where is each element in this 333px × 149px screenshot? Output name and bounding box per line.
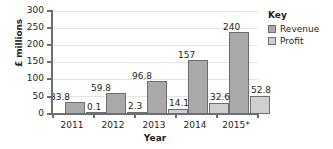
x-category-2014: 2014 — [172, 120, 218, 130]
y-tick-300 — [47, 10, 52, 12]
gridline-100 — [52, 79, 258, 80]
y-tick-200 — [47, 44, 52, 46]
value-label-profit-2014: 32.6 — [210, 93, 230, 102]
y-tick-150 — [47, 61, 52, 63]
bar-chart-figure: £ millions 33.8 0.1 59.8 2.3 96.8 14.1 1… — [0, 0, 333, 149]
value-label-revenue-2011: 33.8 — [50, 93, 70, 102]
value-label-profit-2012: 2.3 — [128, 102, 142, 111]
x-tick-5 — [257, 113, 259, 118]
value-label-revenue-2015: 240 — [223, 23, 240, 32]
gridline-150 — [52, 62, 258, 63]
x-tick-0 — [52, 113, 54, 118]
x-category-2013: 2013 — [131, 120, 177, 130]
x-category-2012: 2012 — [90, 120, 136, 130]
legend-title: Key — [268, 10, 332, 20]
bar-revenue-2012 — [106, 93, 126, 114]
value-label-revenue-2012: 59.8 — [91, 84, 111, 93]
legend-swatch-profit-icon — [268, 37, 276, 45]
legend-swatch-revenue-icon — [268, 25, 276, 33]
y-tick-100 — [47, 78, 52, 80]
bar-revenue-2014 — [188, 60, 208, 114]
legend-label-revenue: Revenue — [280, 24, 319, 34]
x-category-2015: 2015* — [213, 120, 259, 130]
value-label-profit-2015: 52.8 — [251, 86, 271, 95]
value-label-revenue-2013: 96.8 — [132, 72, 152, 81]
value-label-revenue-2014: 157 — [178, 51, 195, 60]
y-tick-label-300: 300 — [4, 6, 44, 15]
x-tick-4 — [216, 113, 218, 118]
y-tick-label-0: 0 — [4, 109, 44, 118]
x-tick-1 — [93, 113, 95, 118]
legend-label-profit: Profit — [280, 36, 303, 46]
legend-item-revenue: Revenue — [268, 24, 332, 34]
value-label-profit-2013: 14.1 — [169, 99, 189, 108]
y-tick-label-50: 50 — [4, 92, 44, 101]
x-axis-title: Year — [52, 133, 258, 143]
chart-legend: Key Revenue Profit — [268, 10, 332, 48]
gridline-200 — [52, 45, 258, 46]
legend-item-profit: Profit — [268, 36, 332, 46]
y-tick-label-250: 250 — [4, 23, 44, 32]
y-tick-label-150: 150 — [4, 57, 44, 66]
y-tick-50 — [47, 96, 52, 98]
x-category-2011: 2011 — [49, 120, 95, 130]
gridline-300 — [52, 11, 258, 12]
x-axis-line — [51, 113, 259, 115]
y-tick-label-200: 200 — [4, 40, 44, 49]
value-label-profit-2011: 0.1 — [87, 103, 101, 112]
x-tick-3 — [175, 113, 177, 118]
plot-area: 33.8 0.1 59.8 2.3 96.8 14.1 157 32.6 240… — [52, 11, 258, 114]
bar-profit-2015 — [250, 96, 270, 114]
y-axis-line — [51, 10, 53, 115]
x-tick-2 — [134, 113, 136, 118]
y-tick-label-100: 100 — [4, 74, 44, 83]
bar-revenue-2013 — [147, 81, 167, 114]
y-tick-250 — [47, 27, 52, 29]
bar-revenue-2015 — [229, 32, 249, 114]
